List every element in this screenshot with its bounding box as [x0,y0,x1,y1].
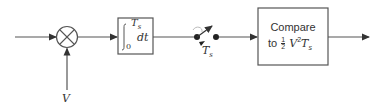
expr-var: V [289,37,297,50]
integrator-lower-limit: 0 [126,42,131,51]
upper-limit-sub: s [138,23,142,31]
switch-label-sub: s [209,51,213,59]
compare-line2: to 1 2 V2Ts [268,36,330,51]
integrator-upper-limit: Ts [131,17,141,31]
integrator-integrand: dt [137,31,148,44]
frac-den: 2 [281,44,285,50]
compare-line1: Compare [258,21,328,33]
switch-label: Ts [202,44,213,59]
fraction-half: 1 2 [281,37,285,50]
reference-input-label: V [62,92,70,105]
compare-prefix: to [268,37,277,49]
sampling-switch-icon [193,26,219,46]
multiplier-icon [57,27,78,48]
block-diagram-canvas [0,0,386,108]
upper-limit-var: T [131,17,138,28]
expr-t-sub: s [308,44,312,51]
